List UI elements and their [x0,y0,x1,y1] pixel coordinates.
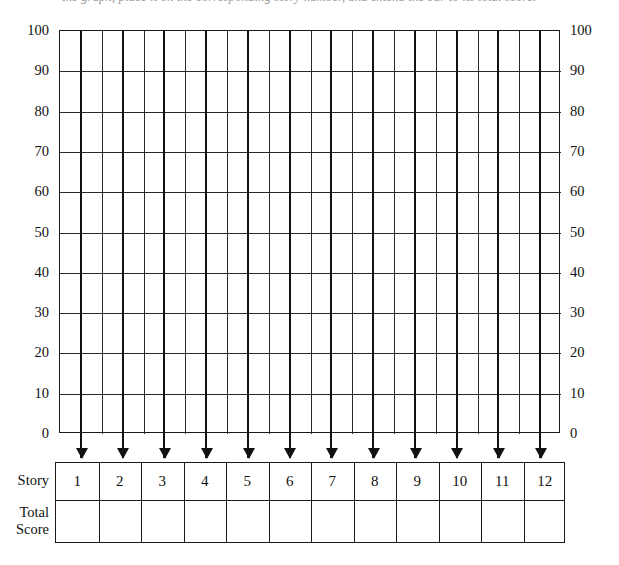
story-number-cell-9: 9 [396,463,439,500]
y-axis-tick-0: 0 [15,426,49,441]
total-score-cell-7[interactable] [311,501,354,543]
y-axis-tick-60: 60 [15,184,49,199]
row-label-total-line1: Total [0,504,49,521]
arrow-head-icon [117,448,129,459]
y-axis-tick-80: 80 [15,104,49,119]
column-arrow-7 [330,30,332,458]
story-number-cell-1: 1 [56,463,99,500]
total-score-cell-1[interactable] [56,501,99,543]
arrow-head-icon [326,448,338,459]
y-axis-tick-100: 100 [15,23,49,38]
grid-col-line [394,31,395,434]
grid-col-line [311,31,312,434]
arrow-head-icon [284,448,296,459]
story-number-cell-2: 2 [99,463,142,500]
chart-grid[interactable] [59,30,560,433]
arrow-head-icon [201,448,213,459]
column-arrow-4 [205,30,207,458]
total-score-cell-2[interactable] [99,501,142,543]
story-number-cell-11: 11 [481,463,524,500]
arrow-head-icon [451,448,463,459]
grid-col-line [478,31,479,434]
grid-col-line [102,31,103,434]
total-score-cell-3[interactable] [141,501,184,543]
column-arrow-8 [372,30,374,458]
y-axis-tick-90: 90 [15,63,49,78]
column-arrow-2 [122,30,124,458]
y-axis-tick-50: 50 [15,225,49,240]
story-number-cell-3: 3 [141,463,184,500]
grid-col-line [352,31,353,434]
story-number-cell-4: 4 [184,463,227,500]
grid-col-line [227,31,228,434]
y-axis-tick-30: 30 [570,305,604,320]
story-number-cell-10: 10 [439,463,482,500]
arrow-head-icon [76,448,88,459]
grid-col-line [269,31,270,434]
y-axis-tick-20: 20 [570,345,604,360]
column-arrow-1 [80,30,82,458]
top-caption-text: the graph, place it on the corresponding… [62,0,536,5]
total-score-cell-8[interactable] [354,501,397,543]
column-arrow-3 [163,30,165,458]
y-axis-tick-70: 70 [570,144,604,159]
y-axis-tick-0: 0 [570,426,604,441]
column-arrow-11 [497,30,499,458]
y-axis-tick-90: 90 [570,63,604,78]
total-score-cell-9[interactable] [396,501,439,543]
arrow-head-icon [368,448,380,459]
top-caption-strip: the graph, place it on the corresponding… [0,0,619,9]
y-axis-tick-50: 50 [570,225,604,240]
column-arrow-9 [414,30,416,458]
y-axis-left: 1009080706050403020100 [15,22,49,442]
column-arrow-10 [456,30,458,458]
score-worksheet: the graph, place it on the corresponding… [0,0,619,565]
total-score-cell-12[interactable] [524,501,567,543]
column-arrow-12 [539,30,541,458]
y-axis-tick-20: 20 [15,345,49,360]
y-axis-tick-80: 80 [570,104,604,119]
total-score-cell-5[interactable] [226,501,269,543]
row-label-total-score: Total Score [0,504,49,537]
arrow-head-icon [535,448,547,459]
arrow-head-icon [243,448,255,459]
y-axis-tick-30: 30 [15,305,49,320]
y-axis-tick-100: 100 [570,23,604,38]
arrow-head-icon [410,448,422,459]
column-arrow-5 [247,30,249,458]
row-label-total-line2: Score [0,521,49,538]
y-axis-tick-40: 40 [570,265,604,280]
story-number-cell-5: 5 [226,463,269,500]
score-table[interactable]: 123456789101112 [55,462,565,543]
grid-col-line [436,31,437,434]
story-number-cell-8: 8 [354,463,397,500]
total-score-cell-11[interactable] [481,501,524,543]
story-number-cell-7: 7 [311,463,354,500]
total-score-cell-6[interactable] [269,501,312,543]
arrow-head-icon [493,448,505,459]
y-axis-tick-60: 60 [570,184,604,199]
column-arrow-6 [289,30,291,458]
arrow-head-icon [159,448,171,459]
grid-col-line [519,31,520,434]
story-number-cell-6: 6 [269,463,312,500]
row-label-story: Story [0,472,49,489]
y-axis-tick-10: 10 [15,386,49,401]
story-number-cell-12: 12 [524,463,567,500]
grid-col-line [144,31,145,434]
y-axis-tick-70: 70 [15,144,49,159]
y-axis-tick-40: 40 [15,265,49,280]
grid-col-line [185,31,186,434]
y-axis-right: 1009080706050403020100 [570,22,604,442]
total-score-cell-4[interactable] [184,501,227,543]
total-score-cell-10[interactable] [439,501,482,543]
y-axis-tick-10: 10 [570,386,604,401]
